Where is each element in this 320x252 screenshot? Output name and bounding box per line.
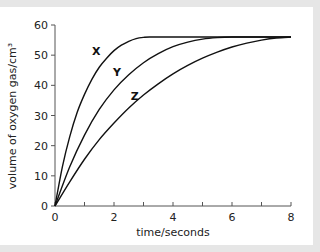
y-tick-label: 30: [34, 110, 48, 123]
y-tick-label: 60: [34, 19, 48, 32]
line-chart: 024680102030405060 XYZ time/seconds volu…: [0, 0, 320, 252]
x-tick-label: 4: [170, 211, 177, 224]
y-tick-label: 0: [41, 200, 48, 213]
x-tick-label: 2: [111, 211, 118, 224]
series-x-label: X: [92, 45, 101, 58]
series-x-line: [55, 37, 291, 206]
x-axis-title: time/seconds: [136, 226, 210, 239]
y-axis-title: volume of oxygen gas/cm³: [6, 43, 19, 189]
x-tick-label: 0: [52, 211, 59, 224]
series-y-label: Y: [112, 66, 122, 79]
y-tick-label: 40: [34, 79, 48, 92]
y-tick-label: 10: [34, 170, 48, 183]
x-tick-label: 6: [229, 211, 236, 224]
y-tick-label: 50: [34, 49, 48, 62]
series-y-line: [55, 37, 291, 206]
y-tick-label: 20: [34, 140, 48, 153]
axes: 024680102030405060: [34, 19, 295, 224]
x-tick-label: 8: [288, 211, 295, 224]
series-z-label: Z: [131, 90, 139, 103]
series-group: XYZ: [55, 37, 291, 206]
series-z-line: [55, 37, 291, 206]
